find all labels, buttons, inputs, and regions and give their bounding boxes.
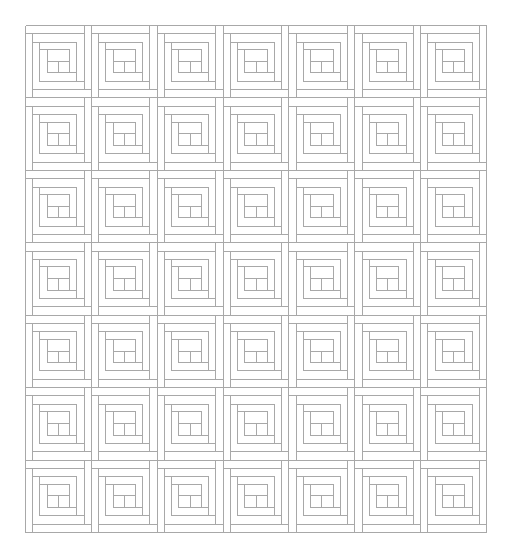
quilt-grid	[26, 26, 487, 533]
quilt-pattern-canvas	[0, 0, 513, 553]
